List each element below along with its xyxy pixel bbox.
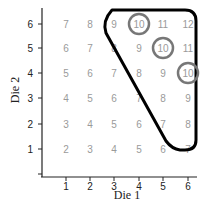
x-tick-label: 5 — [160, 181, 166, 192]
sum-cell: 7 — [160, 119, 166, 130]
sum-cell: 9 — [136, 43, 142, 54]
sum-cell: 6 — [63, 43, 69, 54]
sum-cell: 4 — [87, 119, 93, 130]
y-tick-label: 6 — [27, 19, 33, 30]
sum-cell: 5 — [136, 144, 142, 155]
y-tick-label: 3 — [27, 93, 33, 104]
y-tick-label: 1 — [27, 144, 33, 155]
sum-cell: 11 — [183, 43, 194, 54]
sum-cell: 8 — [160, 93, 166, 104]
sum-cell: 9 — [160, 68, 166, 79]
sum-cells: 7891011126789101156789104567893456782345… — [63, 19, 194, 155]
dice-sum-chart: 123456 123456 78910111267891011567891045… — [0, 0, 201, 203]
sum-cell: 6 — [136, 119, 142, 130]
sum-cell: 9 — [111, 19, 117, 30]
sum-cell: 5 — [63, 68, 69, 79]
sum-cell: 5 — [87, 93, 93, 104]
y-axis-title: Die 2 — [8, 77, 22, 103]
x-axis-title: Die 1 — [114, 188, 140, 202]
y-tick-label: 2 — [27, 119, 33, 130]
sum-cell: 12 — [182, 19, 194, 30]
sum-cell: 6 — [87, 68, 93, 79]
sum-cell: 5 — [111, 119, 117, 130]
sum-cell: 7 — [87, 43, 93, 54]
sum-cell: 9 — [185, 93, 191, 104]
y-tick-label: 5 — [27, 43, 33, 54]
sum-cell: 8 — [136, 68, 142, 79]
y-tick-label: 4 — [27, 68, 33, 79]
sum-cell: 3 — [87, 144, 93, 155]
sum-cell: 2 — [63, 144, 69, 155]
sum-cell: 4 — [63, 93, 69, 104]
sum-cell: 10 — [182, 68, 194, 79]
sum-cell: 7 — [63, 19, 69, 30]
y-ticks: 123456 — [27, 19, 42, 174]
sum-cell: 6 — [160, 144, 166, 155]
sum-cell: 3 — [63, 119, 69, 130]
sum-cell: 10 — [157, 43, 169, 54]
sum-cell: 8 — [185, 119, 191, 130]
x-tick-label: 2 — [87, 181, 93, 192]
sum-cell: 6 — [111, 93, 117, 104]
sum-cell: 8 — [87, 19, 93, 30]
sum-cell: 4 — [111, 144, 117, 155]
sum-cell: 11 — [158, 19, 169, 30]
x-tick-label: 6 — [185, 181, 191, 192]
x-tick-label: 1 — [63, 181, 69, 192]
sum-cell: 10 — [133, 19, 145, 30]
sum-cell: 7 — [111, 68, 117, 79]
